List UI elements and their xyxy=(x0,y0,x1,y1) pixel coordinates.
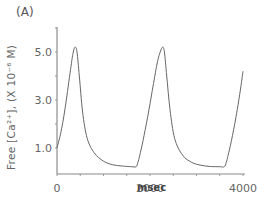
y-axis-title: Free [Ca²⁺], (X 10⁻⁶ M) xyxy=(5,45,17,170)
x-tick-label: 4000 xyxy=(229,182,257,195)
y-tick-label: 5.0 xyxy=(35,46,53,59)
series-line xyxy=(57,47,243,167)
y-tick-label: 3.0 xyxy=(35,94,53,107)
y-tick-label: 1.0 xyxy=(35,142,53,155)
calcium-line-chart: 1.03.05.0020004000 xyxy=(0,0,270,214)
axes: 1.03.05.0020004000 xyxy=(35,27,258,195)
x-axis-title: msec xyxy=(137,182,166,193)
x-tick-label: 0 xyxy=(54,182,61,195)
